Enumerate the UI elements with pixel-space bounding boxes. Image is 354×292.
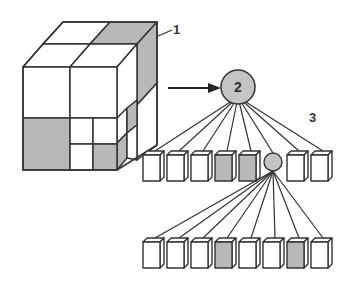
tree-leaf-empty [191, 238, 212, 268]
tree-leaf-empty [143, 238, 164, 268]
diagram-canvas: 1 2 3 [0, 0, 354, 292]
cube-front-lower-right-c [70, 144, 93, 170]
tree-leaf-empty [167, 238, 188, 268]
tree-leaf-filled [287, 238, 308, 268]
arrow-icon [168, 83, 221, 93]
tree-leaf-empty [311, 151, 332, 181]
tree-level1-children [143, 151, 332, 181]
tree-level2-children [143, 238, 332, 268]
octree-diagram: 1 2 3 [0, 0, 354, 292]
cube-front-lower-left-shaded [23, 118, 70, 170]
cube-front-upper-left [23, 67, 70, 118]
tree-leaf-empty [167, 151, 188, 181]
tree-leaf-filled [239, 151, 260, 181]
tree-internal-node [264, 153, 282, 171]
tree-leaf-empty [191, 151, 212, 181]
cube-front-lower-right-b [93, 118, 117, 144]
tree-leaf-empty [143, 151, 164, 181]
cube-front-upper-right [70, 67, 117, 118]
label-3: 3 [309, 110, 316, 125]
label-1-leader [158, 30, 172, 36]
tree-leaf-empty [287, 151, 308, 181]
tree-edges-level1 [155, 97, 323, 153]
tree-leaf-empty [263, 238, 284, 268]
cube-front-lower-right-d-shaded [93, 144, 117, 170]
tree-leaf-filled [215, 238, 236, 268]
root-node: 2 [221, 70, 255, 104]
tree-leaf-empty [311, 238, 332, 268]
cube-front-lower-right-a [70, 118, 93, 144]
root-node-label: 2 [234, 79, 242, 95]
subdivided-cube [23, 22, 157, 170]
tree-leaf-filled [215, 151, 236, 181]
tree-leaf-empty [239, 238, 260, 268]
label-1: 1 [173, 22, 180, 37]
